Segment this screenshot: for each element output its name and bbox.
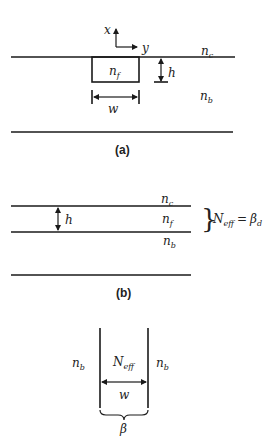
height-dimension: h bbox=[58, 208, 73, 230]
panel-c: nb nb Neff w β bbox=[72, 328, 169, 436]
bottom-brace-icon bbox=[100, 410, 148, 420]
height-label: h bbox=[168, 66, 176, 80]
core-index-label: Neff bbox=[112, 355, 135, 371]
width-label: w bbox=[108, 102, 119, 116]
beta-label: β bbox=[119, 422, 127, 436]
waveguide-diagram: x y nf nc h w nb (a) nc bbox=[0, 0, 271, 437]
caption-a: (a) bbox=[115, 143, 130, 157]
left-index-label: nb bbox=[72, 356, 85, 372]
panel-a: x y nf nc h w nb (a) bbox=[11, 23, 235, 157]
substrate-index-label: nb bbox=[163, 234, 176, 250]
y-axis-label: y bbox=[141, 41, 149, 55]
caption-b: (b) bbox=[116, 286, 131, 300]
width-dimension: w bbox=[92, 90, 139, 116]
right-index-label: nb bbox=[156, 356, 169, 372]
width-label: w bbox=[119, 388, 130, 402]
width-dimension: w bbox=[102, 382, 146, 402]
x-axis-label: x bbox=[104, 23, 111, 37]
cladding-index-label: nc bbox=[201, 44, 214, 60]
film-index-label: nf bbox=[162, 212, 175, 228]
effective-index-equation: Neff=βd bbox=[212, 212, 262, 228]
panel-b: nc h nf nb } Neff=βd (b) bbox=[11, 192, 262, 300]
substrate-index-label: nb bbox=[200, 89, 213, 105]
film-index-label: nf bbox=[109, 64, 122, 80]
height-dimension: h bbox=[154, 59, 176, 82]
height-label: h bbox=[65, 213, 73, 227]
coordinate-axes: x y bbox=[104, 23, 149, 55]
